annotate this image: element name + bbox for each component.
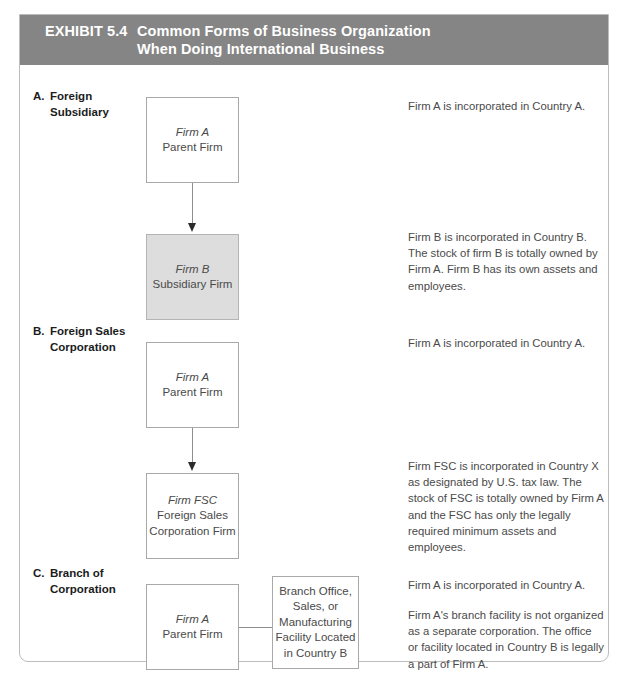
box-c-parent-firm-subtitle: Parent Firm bbox=[162, 627, 222, 643]
box-c-parent-firm-title: Firm A bbox=[176, 612, 209, 628]
box-b-fsc-firm: Firm FSC Foreign Sales Corporation Firm bbox=[146, 473, 239, 559]
connector-a-arrowhead-icon bbox=[188, 223, 196, 232]
box-a-subsidiary-firm: Firm B Subsidiary Firm bbox=[146, 234, 239, 320]
box-c-branch-line-1: Branch Office, bbox=[279, 584, 352, 600]
section-b-label-line-1: Foreign Sales bbox=[50, 325, 125, 337]
connector-a-line bbox=[192, 183, 193, 226]
box-c-branch-line-5: in Country B bbox=[284, 646, 347, 662]
box-a-parent-firm: Firm A Parent Firm bbox=[146, 97, 239, 183]
box-b-fsc-firm-line-2: Foreign Sales bbox=[157, 508, 228, 524]
section-c-label-line-2: Corporation bbox=[50, 582, 116, 598]
description-b-2: Firm FSC is incorporated in Country X as… bbox=[408, 458, 604, 555]
connector-b-arrowhead-icon bbox=[188, 462, 196, 471]
connector-b-line bbox=[192, 428, 193, 464]
box-a-parent-firm-title: Firm A bbox=[176, 125, 209, 141]
box-b-parent-firm-subtitle: Parent Firm bbox=[162, 385, 222, 401]
box-c-branch-line-4: Facility Located bbox=[276, 630, 356, 646]
exhibit-title-line-2: When Doing International Business bbox=[137, 41, 384, 57]
box-b-fsc-firm-title: Firm FSC bbox=[168, 493, 217, 509]
section-b-label-line-2: Corporation bbox=[50, 340, 125, 356]
exhibit-number: EXHIBIT 5.4 bbox=[45, 22, 137, 40]
exhibit-header-line-1: EXHIBIT 5.4Common Forms of Business Orga… bbox=[45, 22, 608, 40]
description-a-2: Firm B is incorporated in Country B. The… bbox=[408, 229, 604, 294]
section-c-label-line-1: Branch of bbox=[50, 567, 104, 579]
box-c-branch-line-2: Sales, or bbox=[293, 599, 338, 615]
connector-c-line bbox=[239, 627, 272, 628]
box-a-subsidiary-firm-subtitle: Subsidiary Firm bbox=[153, 277, 233, 293]
section-label-a: A.Foreign Subsidiary bbox=[33, 89, 109, 120]
box-a-subsidiary-firm-title: Firm B bbox=[176, 262, 210, 278]
description-b-1: Firm A is incorporated in Country A. bbox=[408, 335, 604, 351]
box-c-branch-facility: Branch Office, Sales, or Manufacturing F… bbox=[272, 576, 359, 669]
box-b-parent-firm-title: Firm A bbox=[176, 370, 209, 386]
box-a-parent-firm-subtitle: Parent Firm bbox=[162, 140, 222, 156]
section-label-c: C.Branch of Corporation bbox=[33, 566, 116, 597]
box-b-fsc-firm-line-3: Corporation Firm bbox=[149, 524, 235, 540]
box-c-parent-firm: Firm A Parent Firm bbox=[146, 584, 239, 670]
section-a-label-line-2: Subsidiary bbox=[50, 105, 109, 121]
exhibit-frame: EXHIBIT 5.4Common Forms of Business Orga… bbox=[19, 14, 609, 662]
description-c-1: Firm A is incorporated in Country A. bbox=[408, 577, 604, 593]
exhibit-header: EXHIBIT 5.4Common Forms of Business Orga… bbox=[20, 15, 608, 65]
box-c-branch-line-3: Manufacturing bbox=[279, 615, 352, 631]
box-b-parent-firm: Firm A Parent Firm bbox=[146, 342, 239, 428]
section-label-b: B.Foreign Sales Corporation bbox=[33, 324, 125, 355]
section-letter-c: C. bbox=[33, 566, 50, 582]
exhibit-header-line-2: When Doing International Business bbox=[45, 40, 608, 58]
exhibit-title-line-1: Common Forms of Business Organization bbox=[137, 23, 431, 39]
section-a-label-line-1: Foreign bbox=[50, 90, 92, 102]
section-letter-a: A. bbox=[33, 89, 50, 105]
description-a-1: Firm A is incorporated in Country A. bbox=[408, 98, 604, 114]
description-c-2: Firm A's branch facility is not organize… bbox=[408, 607, 604, 672]
section-letter-b: B. bbox=[33, 324, 50, 340]
